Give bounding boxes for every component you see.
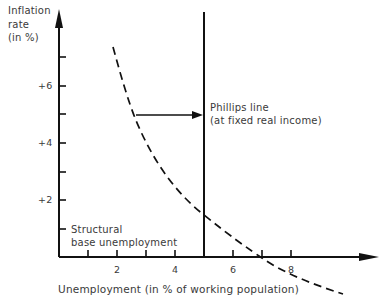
y-ticks xyxy=(59,57,66,229)
x-tick-label-6: 6 xyxy=(230,263,236,276)
x-tick-label-8: 8 xyxy=(288,263,294,276)
x-axis-label: Unemployment (in % of working population… xyxy=(58,283,299,296)
structural-unemployment-annotation: Structural base unemployment xyxy=(71,223,177,249)
y-axis-label: Inflation rate (in %) xyxy=(8,4,51,45)
phillips-line-annotation: Phillips line (at fixed real income) xyxy=(210,101,322,127)
x-tick-label-2: 2 xyxy=(114,263,120,276)
annotation-arrow-icon xyxy=(192,111,203,119)
x-ticks xyxy=(88,250,291,257)
y-tick-label-2: +2 xyxy=(38,193,52,206)
y-tick-label-6: +6 xyxy=(38,79,52,92)
x-tick-label-4: 4 xyxy=(172,263,178,276)
x-axis-arrow-icon xyxy=(359,253,379,261)
y-axis-label-line-1: Inflation xyxy=(8,4,51,18)
phillips-curve-chart: Inflation rate (in %) +6 +4 +2 2 4 6 8 U… xyxy=(0,0,389,306)
phillips-line-label-2: (at fixed real income) xyxy=(210,114,322,127)
y-axis-label-line-2: rate xyxy=(8,18,51,32)
structural-label-1: Structural xyxy=(71,223,177,236)
phillips-line-label-1: Phillips line xyxy=(210,101,322,114)
y-axis-arrow-icon xyxy=(55,9,63,28)
y-tick-label-4: +4 xyxy=(38,136,52,149)
y-axis-label-line-3: (in %) xyxy=(8,31,51,45)
chart-canvas xyxy=(0,0,389,306)
structural-label-2: base unemployment xyxy=(71,236,177,249)
